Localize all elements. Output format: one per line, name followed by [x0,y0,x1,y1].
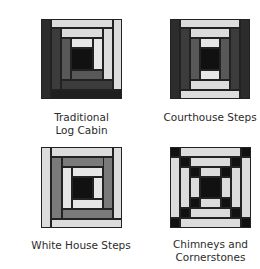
quilt-piece-lighter [93,177,103,199]
quilt-piece-lighter [62,167,72,209]
quilt-piece-light [190,208,231,218]
quilt-piece-lighter [72,167,103,177]
quilt-piece-light [200,198,221,208]
quilt-piece-light [231,167,241,208]
quilt-piece-black [170,147,180,157]
quilt-piece-light [180,218,241,228]
caption-line: Courthouse Steps [160,111,260,124]
caption-traditional-log-cabin: Traditional Log Cabin [41,111,122,137]
quilt-piece-light [61,28,103,38]
quilt-piece-mid [220,38,230,80]
caption-line: Log Cabin [41,124,122,137]
quilt-piece-black [221,198,231,208]
caption-courthouse-steps: Courthouse Steps [160,111,260,124]
quilt-piece-black [231,157,241,167]
quilt-piece-lighter [93,38,103,70]
quilt-piece-light [221,177,231,198]
quilt-piece-light [51,19,113,28]
quilt-piece-light [180,90,240,99]
quilt-piece-darkmid [61,80,113,90]
quilt-piece-black [170,218,180,228]
quilt-piece-dark [240,19,250,99]
quilt-piece-mid [61,38,71,80]
quilt-block-traditional-log-cabin [41,19,122,99]
quilt-piece-darkmid [230,28,240,90]
quilt-piece-midgray [103,157,113,209]
quilt-piece-light [190,157,231,167]
quilt-piece-light [51,219,122,228]
quilt-piece-light [180,147,241,157]
quilt-piece-light [113,147,122,219]
caption-line: Cornerstones [160,251,260,264]
quilt-piece-black [190,167,200,177]
quilt-piece-black [180,157,190,167]
quilt-piece-black [200,48,220,70]
quilt-piece-light [190,177,200,198]
quilt-piece-black [231,208,241,218]
quilt-piece-black [241,218,251,228]
quilt-piece-darker [51,90,122,99]
quilt-block-courthouse-steps [170,19,250,99]
caption-line: White House Steps [31,239,131,252]
quilt-piece-mid [71,70,103,80]
quilt-piece-black [72,177,93,199]
caption-line: Chimneys and [160,238,260,251]
quilt-piece-light [51,147,113,157]
quilt-piece-black [180,208,190,218]
quilt-piece-dark [170,19,180,99]
quilt-piece-black [241,147,251,157]
quilt-piece-light [170,157,180,218]
quilt-piece-lighter [200,38,220,48]
quilt-piece-lighter [71,38,93,48]
quilt-block-chimneys-and-cornerstones [170,147,251,228]
quilt-piece-black [71,48,93,70]
quilt-piece-lighter [200,70,220,80]
quilt-piece-black [190,198,200,208]
quilt-piece-black [221,167,231,177]
quilt-piece-midgray [51,157,62,219]
quilt-piece-light [103,28,113,80]
quilt-piece-light [200,167,221,177]
quilt-piece-midgray [62,209,113,219]
quilt-piece-darkmid [51,28,61,90]
quilt-piece-light [190,28,230,38]
quilt-piece-dark [41,19,51,99]
quilt-piece-light [241,157,251,218]
quilt-piece-light [180,167,190,208]
quilt-piece-light [180,19,240,28]
quilt-piece-black [200,177,221,198]
caption-line: Traditional [41,111,122,124]
quilt-piece-light [190,80,230,90]
quilt-piece-lighter [72,199,103,209]
caption-chimneys-and-cornerstones: Chimneys and Cornerstones [160,238,260,264]
caption-white-house-steps: White House Steps [31,239,131,252]
quilt-piece-mid [190,38,200,80]
quilt-piece-darkmid [180,28,190,90]
quilt-block-white-house-steps [41,147,122,228]
quilt-piece-light [113,19,122,90]
quilt-piece-light [41,147,51,228]
